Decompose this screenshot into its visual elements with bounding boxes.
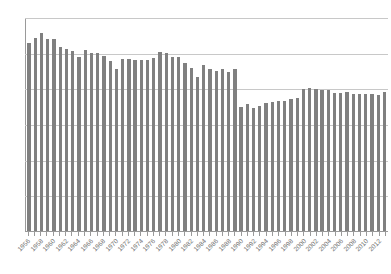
bar-1999[interactable] — [296, 98, 299, 231]
bar-1983[interactable] — [196, 77, 199, 231]
bar-1965[interactable] — [84, 50, 87, 231]
bar-2004[interactable] — [327, 90, 330, 231]
bar-1986[interactable] — [215, 71, 218, 232]
bar-1981[interactable] — [183, 63, 186, 231]
bar-1987[interactable] — [221, 69, 224, 231]
bar-1978[interactable] — [165, 53, 168, 231]
bar-1964[interactable] — [77, 57, 80, 231]
bar-2012[interactable] — [377, 95, 380, 231]
bar-1961[interactable] — [59, 47, 62, 231]
bar-1992[interactable] — [252, 108, 255, 231]
bar-2003[interactable] — [320, 90, 323, 231]
bar-series — [26, 18, 388, 231]
bar-1972[interactable] — [127, 59, 130, 231]
plot-area — [25, 18, 388, 232]
bar-2002[interactable] — [314, 89, 317, 231]
bar-1988[interactable] — [227, 72, 230, 231]
bar-1960[interactable] — [52, 39, 55, 231]
bar-1969[interactable] — [109, 61, 112, 231]
bar-2013[interactable] — [383, 92, 386, 231]
x-label-slot — [382, 236, 388, 274]
bar-1991[interactable] — [246, 104, 249, 231]
bar-1976[interactable] — [152, 58, 155, 231]
x-axis-tick-labels: 1956195819601962196419661968197019721974… — [25, 236, 388, 274]
bar-1994[interactable] — [264, 103, 267, 231]
bar-1985[interactable] — [208, 69, 211, 231]
bar-1962[interactable] — [65, 49, 68, 231]
bar-chart: 0102030405060 19561958196019621964196619… — [0, 0, 391, 274]
bar-2001[interactable] — [308, 88, 311, 231]
bar-2009[interactable] — [358, 94, 361, 231]
bar-1967[interactable] — [96, 53, 99, 231]
bar-2000[interactable] — [302, 89, 305, 231]
bar-2008[interactable] — [352, 94, 355, 231]
bar-1963[interactable] — [71, 51, 74, 231]
bar-1990[interactable] — [239, 107, 242, 231]
bar-2005[interactable] — [333, 93, 336, 231]
bar-1989[interactable] — [233, 69, 236, 231]
bar-2007[interactable] — [345, 92, 348, 231]
bar-2006[interactable] — [339, 93, 342, 231]
bar-1958[interactable] — [40, 33, 43, 231]
bar-1977[interactable] — [158, 52, 161, 231]
bar-1984[interactable] — [202, 65, 205, 231]
bar-1997[interactable] — [283, 101, 286, 231]
bar-1975[interactable] — [146, 60, 149, 231]
bar-1968[interactable] — [102, 56, 105, 231]
bar-1995[interactable] — [271, 102, 274, 231]
bar-2011[interactable] — [370, 94, 373, 231]
bar-1956[interactable] — [27, 43, 30, 231]
bar-1959[interactable] — [46, 39, 49, 231]
bar-1973[interactable] — [133, 60, 136, 231]
bar-1971[interactable] — [121, 59, 124, 231]
bar-1996[interactable] — [277, 101, 280, 231]
bar-1982[interactable] — [190, 68, 193, 231]
bar-1957[interactable] — [34, 38, 37, 231]
bar-2010[interactable] — [364, 94, 367, 231]
bar-1979[interactable] — [171, 57, 174, 231]
bar-1980[interactable] — [177, 57, 180, 231]
bar-1966[interactable] — [90, 53, 93, 231]
bar-1998[interactable] — [289, 99, 292, 231]
bar-1974[interactable] — [140, 60, 143, 231]
bar-1993[interactable] — [258, 106, 261, 231]
bar-slot — [381, 18, 387, 231]
bar-1970[interactable] — [115, 69, 118, 231]
